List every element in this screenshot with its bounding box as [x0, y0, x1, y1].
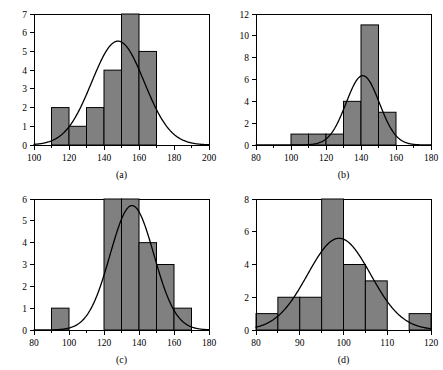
y-axis-ticks: 024681012 — [240, 10, 257, 151]
x-tick-label: 200 — [202, 153, 217, 163]
y-tick-label: 12 — [240, 10, 250, 20]
y-tick-label: 4 — [244, 97, 249, 107]
panel-c: 801001201401601800123456(c) — [0, 185, 221, 370]
x-tick-label: 160 — [132, 153, 147, 163]
x-tick-label: 180 — [424, 153, 439, 163]
histogram-chart-c: 801001201401601800123456(c) — [0, 185, 221, 370]
x-tick-label: 160 — [167, 338, 182, 348]
y-tick-label: 7 — [22, 10, 27, 20]
x-tick-label: 120 — [97, 338, 112, 348]
y-tick-label: 6 — [244, 75, 249, 85]
histogram-bar — [122, 199, 140, 330]
histogram-bar — [409, 314, 431, 330]
bars-group — [291, 25, 396, 145]
y-tick-label: 0 — [22, 141, 27, 151]
panel-caption: (c) — [116, 354, 127, 366]
x-tick-label: 140 — [97, 153, 112, 163]
x-tick-label: 80 — [251, 338, 261, 348]
y-tick-label: 1 — [22, 122, 27, 132]
histogram-bar — [139, 51, 157, 145]
histogram-bar — [52, 308, 70, 330]
x-axis-ticks: 80100120140160180 — [29, 330, 216, 348]
panel-d: 809010011012002468(d) — [222, 185, 443, 370]
histogram-chart-a: 10012014016018020001234567(a) — [0, 0, 221, 185]
histogram-figure: 10012014016018020001234567(a) 8010012014… — [0, 0, 443, 370]
histogram-bar — [300, 297, 322, 330]
histogram-bar — [379, 112, 397, 145]
x-tick-label: 120 — [62, 153, 77, 163]
x-tick-label: 80 — [29, 338, 39, 348]
x-tick-label: 160 — [389, 153, 404, 163]
x-tick-label: 120 — [424, 338, 439, 348]
x-tick-label: 100 — [336, 338, 351, 348]
histogram-bar — [104, 70, 122, 145]
y-tick-label: 1 — [22, 304, 27, 314]
histogram-bar — [291, 134, 309, 145]
y-tick-label: 0 — [244, 141, 249, 151]
panel-b: 80100120140160180024681012(b) — [222, 0, 443, 185]
y-tick-label: 2 — [22, 282, 27, 292]
histogram-bar — [122, 14, 140, 145]
histogram-bar — [344, 265, 366, 331]
x-tick-label: 100 — [284, 153, 299, 163]
y-tick-label: 8 — [244, 53, 249, 63]
bars-group — [256, 199, 431, 330]
y-axis-ticks: 02468 — [244, 195, 256, 336]
y-tick-label: 8 — [244, 195, 249, 205]
histogram-bar — [361, 25, 379, 145]
y-tick-label: 5 — [22, 216, 27, 226]
histogram-bar — [322, 199, 344, 330]
y-tick-label: 3 — [22, 260, 27, 270]
y-tick-label: 2 — [22, 103, 27, 113]
histogram-chart-d: 809010011012002468(d) — [222, 185, 443, 370]
y-tick-label: 6 — [22, 195, 27, 205]
y-axis-ticks: 01234567 — [22, 10, 34, 151]
y-tick-label: 4 — [244, 260, 249, 270]
panel-caption: (b) — [338, 169, 350, 181]
x-tick-label: 100 — [62, 338, 77, 348]
y-tick-label: 0 — [22, 326, 27, 336]
x-tick-label: 90 — [295, 338, 305, 348]
x-tick-label: 180 — [167, 153, 182, 163]
y-tick-label: 6 — [22, 28, 27, 38]
y-axis-ticks: 0123456 — [22, 195, 34, 336]
x-axis-ticks: 80100120140160180 — [251, 145, 438, 163]
y-tick-label: 2 — [244, 119, 249, 129]
y-tick-label: 0 — [244, 326, 249, 336]
y-tick-label: 5 — [22, 47, 27, 57]
panel-caption: (a) — [116, 169, 127, 181]
histogram-chart-b: 80100120140160180024681012(b) — [222, 0, 443, 185]
y-tick-label: 10 — [240, 31, 250, 41]
x-axis-ticks: 8090100110120 — [251, 330, 438, 348]
x-tick-label: 110 — [380, 338, 394, 348]
histogram-bar — [344, 101, 362, 145]
histogram-bar — [87, 108, 105, 145]
x-tick-label: 120 — [319, 153, 334, 163]
y-tick-label: 2 — [244, 293, 249, 303]
y-tick-label: 6 — [244, 227, 249, 237]
bars-group — [52, 14, 157, 145]
histogram-bar — [174, 308, 192, 330]
y-tick-label: 3 — [22, 84, 27, 94]
histogram-bar — [365, 281, 387, 330]
x-tick-label: 180 — [202, 338, 217, 348]
panel-caption: (d) — [338, 354, 350, 366]
histogram-bar — [256, 314, 278, 330]
y-tick-label: 4 — [22, 238, 27, 248]
x-tick-label: 140 — [132, 338, 147, 348]
histogram-bar — [69, 126, 87, 145]
panel-a: 10012014016018020001234567(a) — [0, 0, 221, 185]
y-tick-label: 4 — [22, 66, 27, 76]
x-tick-label: 140 — [354, 153, 369, 163]
x-tick-label: 100 — [27, 153, 42, 163]
x-axis-ticks: 100120140160180200 — [27, 145, 217, 163]
x-tick-label: 80 — [251, 153, 261, 163]
